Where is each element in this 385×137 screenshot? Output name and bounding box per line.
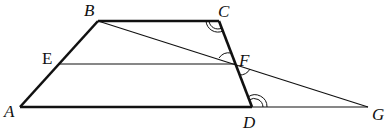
label-B: B <box>84 1 95 20</box>
label-D: D <box>242 113 256 132</box>
label-A: A <box>3 102 15 121</box>
label-C: C <box>218 2 230 21</box>
label-F: F <box>238 51 250 70</box>
geometry-diagram: A B C E F D G <box>0 0 385 137</box>
label-G: G <box>372 105 384 124</box>
label-E: E <box>42 49 52 68</box>
angle-mark-F-upper <box>219 53 231 58</box>
